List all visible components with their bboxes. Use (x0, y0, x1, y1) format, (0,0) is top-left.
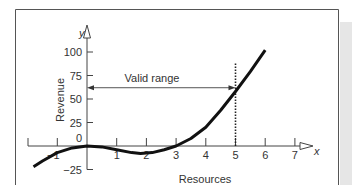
x-tick-label: 4 (203, 149, 209, 161)
plot-area: −11234567−250255075100 (28, 25, 313, 176)
y-tick-label: 75 (70, 70, 82, 82)
chart-figure: −11234567−250255075100 Revenue Resources… (0, 0, 359, 185)
x-axis-arrow-icon (300, 143, 313, 150)
y-tick-label: 0 (76, 132, 82, 144)
y-tick-label: 25 (70, 117, 82, 129)
y-tick-label: 50 (70, 93, 82, 105)
x-tick-label: 5 (232, 149, 238, 161)
x-tick-label: 7 (292, 149, 298, 161)
x-tick-label: 3 (173, 149, 179, 161)
arrowhead-left-icon (87, 85, 94, 90)
y-axis-title: Revenue (54, 78, 66, 122)
valid-range-label: Valid range (125, 72, 180, 84)
x-axis-title: Resources (179, 173, 232, 185)
x-tick-label: 2 (143, 149, 149, 161)
x-tick-label: 6 (262, 149, 268, 161)
frame-shadow (340, 22, 352, 185)
y-tick-label: −25 (63, 164, 82, 176)
arrowhead-right-icon (229, 85, 236, 90)
y-tick-label: 100 (64, 46, 82, 58)
y-axis-arrow-icon (84, 25, 91, 38)
x-axis-name: x (313, 145, 320, 157)
